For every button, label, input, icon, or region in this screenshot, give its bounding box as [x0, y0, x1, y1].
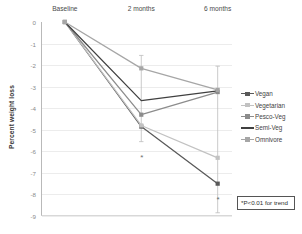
- legend-item-vegan[interactable]: Vegan: [241, 88, 302, 99]
- legend-item-omnivore[interactable]: Omnivore: [241, 134, 302, 145]
- legend-item-pesco-veg[interactable]: Pesco-Veg: [241, 111, 302, 122]
- legend-item-vegetarian[interactable]: Vegetarian: [241, 99, 302, 110]
- legend-swatch-icon: [241, 101, 254, 110]
- significance-note: *P<0.01 for trend: [237, 196, 295, 210]
- legend-swatch-icon: [241, 123, 254, 132]
- legend-label: Vegan: [255, 90, 273, 97]
- legend-item-semi-veg[interactable]: Semi-Veg: [241, 122, 302, 133]
- legend-label: Semi-Veg: [255, 124, 282, 131]
- significance-asterisk: *: [140, 154, 143, 162]
- significance-asterisk: *: [217, 196, 220, 204]
- note-line-1: *P<0.01 for: [241, 199, 272, 206]
- note-line-2: trend: [274, 199, 288, 206]
- legend-swatch-icon: [241, 135, 254, 144]
- legend: VeganVegetarianPesco-VegSemi-VegOmnivore: [241, 88, 302, 145]
- legend-swatch-icon: [241, 112, 254, 121]
- legend-swatch-icon: [241, 89, 254, 98]
- legend-label: Omnivore: [255, 136, 282, 143]
- legend-label: Vegetarian: [255, 102, 285, 109]
- chart-container: Percent weight loss 0-1-2-3-4-5-6-7-8-9 …: [0, 0, 302, 234]
- legend-label: Pesco-Veg: [255, 113, 285, 120]
